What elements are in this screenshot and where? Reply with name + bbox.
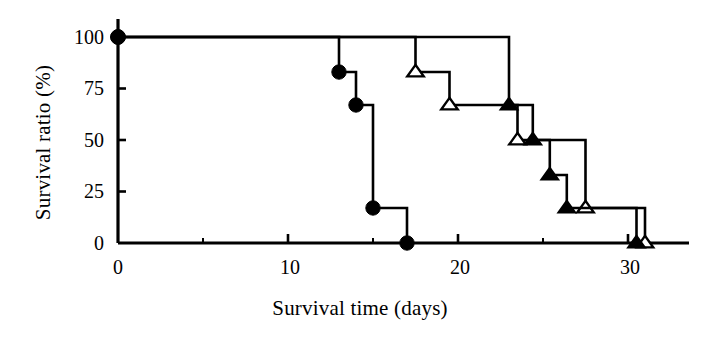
marker-origin-filled-circle [111,30,126,45]
marker-filled-triangle [525,133,541,145]
marker-filled-triangle [501,98,517,110]
marker-filled-triangle [559,201,575,213]
x-tick-label-10: 10 [268,256,312,279]
marker-filled-circle [366,201,380,215]
series-open-triangle-group [118,37,653,247]
axis-lines [118,19,689,243]
x-axis-title: Survival time (days) [0,296,720,321]
x-tick-label-20: 20 [438,256,482,279]
y-tick-label-100: 100 [40,26,104,49]
survival-curve-figure: Survival ratio (%) Survival time (days) … [0,0,720,339]
marker-filled-triangle [542,168,558,180]
x-tick-label-30: 30 [608,256,652,279]
y-tick-label-50: 50 [40,129,104,152]
marker-filled-circle [349,98,363,112]
marker-open-triangle [509,133,525,145]
y-tick-label-75: 75 [40,77,104,100]
marker-filled-circle [332,65,346,79]
marker-open-triangle [441,98,457,110]
step-line [118,37,407,243]
marker-open-triangle [577,201,593,213]
series-filled-circle-group [111,30,414,250]
x-tick-label-0: 0 [98,256,138,279]
series-filled-triangle-group [118,37,645,247]
marker-filled-circle [400,236,414,250]
y-tick-label-0: 0 [40,232,104,255]
survival-plot-svg [0,0,720,339]
marker-open-triangle [407,65,423,77]
y-tick-label-25: 25 [40,180,104,203]
